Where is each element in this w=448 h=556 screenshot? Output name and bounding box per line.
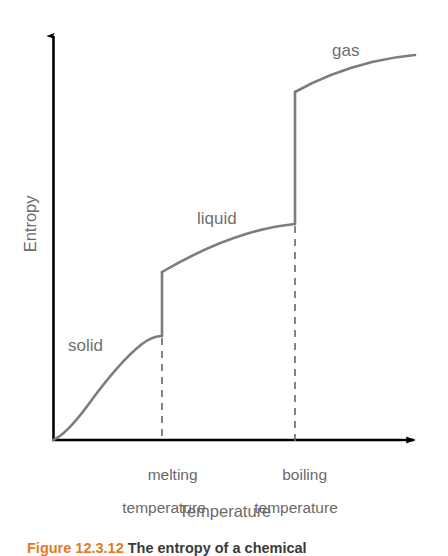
x-tick-label-melting-line1: melting xyxy=(148,466,198,483)
figure-caption: Figure 12.3.12 The entropy of a chemical xyxy=(27,540,427,556)
figure-caption-label: Figure 12.3.12 xyxy=(27,540,124,556)
y-axis-title: Entropy xyxy=(22,174,40,274)
phase-label-liquid: liquid xyxy=(197,210,237,228)
x-tick-label-boiling-line1: boiling xyxy=(282,466,327,483)
phase-label-gas: gas xyxy=(332,42,359,60)
x-tick-label-boiling: boiling temperature xyxy=(249,450,343,550)
gas-phase-curve xyxy=(295,55,415,92)
liquid-phase-curve xyxy=(162,224,295,272)
phase-label-solid: solid xyxy=(68,337,103,355)
x-axis-title: Temperature xyxy=(135,503,315,521)
x-tick-label-melting: melting temperature xyxy=(118,450,210,550)
figure-caption-body: The entropy of a chemical xyxy=(124,540,307,556)
